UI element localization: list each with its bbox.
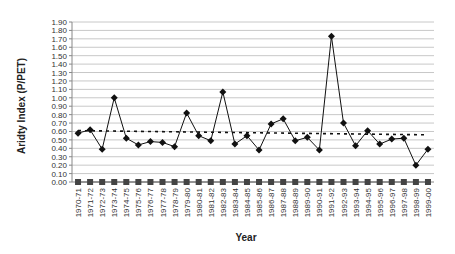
y-tick-label: 1.00	[51, 94, 67, 103]
diamond-marker-icon	[268, 120, 275, 127]
square-marker-icon	[353, 179, 359, 185]
x-tick-label: 1996-97	[388, 187, 397, 217]
square-marker-icon	[401, 179, 407, 185]
y-tick-label: 0.90	[51, 102, 67, 111]
x-tick-label: 1978-79	[171, 187, 180, 217]
square-marker-icon	[304, 179, 310, 185]
square-marker-icon	[341, 179, 347, 185]
y-tick-label: 1.80	[51, 26, 67, 35]
square-marker-icon	[316, 179, 322, 185]
gridlines	[69, 22, 434, 182]
x-tick-label: 1985-86	[255, 187, 264, 217]
x-tick-label: 1982-83	[219, 187, 228, 217]
square-marker-icon	[111, 179, 117, 185]
square-marker-icon	[328, 179, 334, 185]
x-axis-ticks: 1970-711971-721972-731973-741974-751975-…	[74, 187, 433, 217]
square-marker-icon	[172, 179, 178, 185]
y-tick-label: 0.00	[51, 178, 67, 187]
square-marker-icon	[232, 179, 238, 185]
square-marker-icon	[268, 179, 274, 185]
square-marker-icon	[256, 179, 262, 185]
y-tick-label: 1.20	[51, 77, 67, 86]
square-marker-icon	[184, 179, 190, 185]
y-tick-label: 0.20	[51, 161, 67, 170]
square-marker-icon	[87, 179, 93, 185]
diamond-marker-icon	[231, 141, 238, 148]
y-tick-label: 1.30	[51, 69, 67, 78]
square-marker-icon	[75, 179, 81, 185]
square-marker-icon	[377, 179, 383, 185]
x-tick-label: 1975-76	[134, 187, 143, 217]
diamond-marker-icon	[280, 115, 287, 122]
square-marker-icon	[135, 179, 141, 185]
y-tick-label: 1.60	[51, 43, 67, 52]
square-marker-icon	[208, 179, 214, 185]
diamond-marker-icon	[171, 143, 178, 150]
x-tick-label: 1983-84	[231, 187, 240, 217]
x-tick-label: 1979-80	[183, 187, 192, 217]
x-tick-label: 1972-73	[98, 187, 107, 217]
x-tick-label: 1992-93	[340, 187, 349, 217]
x-tick-label: 1998-99	[412, 187, 421, 217]
diamond-marker-icon	[147, 138, 154, 145]
x-tick-label: 1971-72	[86, 187, 95, 217]
x-tick-label: 1995-96	[376, 187, 385, 217]
diamond-marker-icon	[183, 109, 190, 116]
zero-series	[75, 179, 431, 185]
square-marker-icon	[292, 179, 298, 185]
y-tick-label: 1.10	[51, 85, 67, 94]
diamond-marker-icon	[99, 146, 106, 153]
x-tick-label: 1991-92	[327, 187, 336, 217]
square-marker-icon	[425, 179, 431, 185]
x-axis-title: Year	[235, 232, 256, 243]
square-marker-icon	[196, 179, 202, 185]
y-tick-label: 0.80	[51, 111, 67, 120]
x-tick-label: 1986-87	[267, 187, 276, 217]
diamond-marker-icon	[195, 132, 202, 139]
x-tick-label: 1970-71	[74, 187, 83, 217]
diamond-marker-icon	[292, 137, 299, 144]
y-tick-label: 0.30	[51, 153, 67, 162]
x-tick-label: 1997-98	[400, 187, 409, 217]
square-marker-icon	[365, 179, 371, 185]
y-tick-label: 0.70	[51, 119, 67, 128]
y-axis-ticks: 0.000.100.200.300.400.500.600.700.800.90…	[51, 18, 67, 187]
square-marker-icon	[389, 179, 395, 185]
diamond-marker-icon	[123, 135, 130, 142]
x-tick-label: 1999-00	[424, 187, 433, 217]
y-tick-label: 1.40	[51, 60, 67, 69]
x-tick-label: 1990-91	[315, 187, 324, 217]
y-tick-label: 1.90	[51, 18, 67, 27]
square-marker-icon	[244, 179, 250, 185]
square-marker-icon	[413, 179, 419, 185]
x-tick-label: 1993-94	[352, 187, 361, 217]
y-tick-label: 0.60	[51, 127, 67, 136]
square-marker-icon	[160, 179, 166, 185]
y-tick-label: 0.50	[51, 136, 67, 145]
diamond-marker-icon	[135, 141, 142, 148]
x-tick-label: 1989-90	[303, 187, 312, 217]
y-tick-label: 0.40	[51, 144, 67, 153]
x-tick-label: 1988-89	[291, 187, 300, 217]
diamond-marker-icon	[340, 120, 347, 127]
square-marker-icon	[123, 179, 129, 185]
x-tick-label: 1984-85	[243, 187, 252, 217]
diamond-marker-icon	[207, 137, 214, 144]
square-marker-icon	[280, 179, 286, 185]
y-axis-title: Aridty Index (P/PET)	[16, 58, 27, 154]
diamond-marker-icon	[111, 94, 118, 101]
x-tick-label: 1974-75	[122, 187, 131, 217]
x-tick-label: 1980-81	[195, 187, 204, 217]
x-tick-label: 1977-78	[159, 187, 168, 217]
y-tick-label: 0.10	[51, 170, 67, 179]
square-marker-icon	[220, 179, 226, 185]
square-marker-icon	[99, 179, 105, 185]
diamond-marker-icon	[400, 135, 407, 142]
y-tick-label: 1.70	[51, 35, 67, 44]
y-tick-label: 1.50	[51, 52, 67, 61]
x-tick-label: 1973-74	[110, 187, 119, 217]
aridity-index-chart: 0.000.100.200.300.400.500.600.700.800.90…	[0, 0, 455, 254]
diamond-marker-icon	[388, 136, 395, 143]
square-marker-icon	[147, 179, 153, 185]
x-tick-label: 1994-95	[364, 187, 373, 217]
